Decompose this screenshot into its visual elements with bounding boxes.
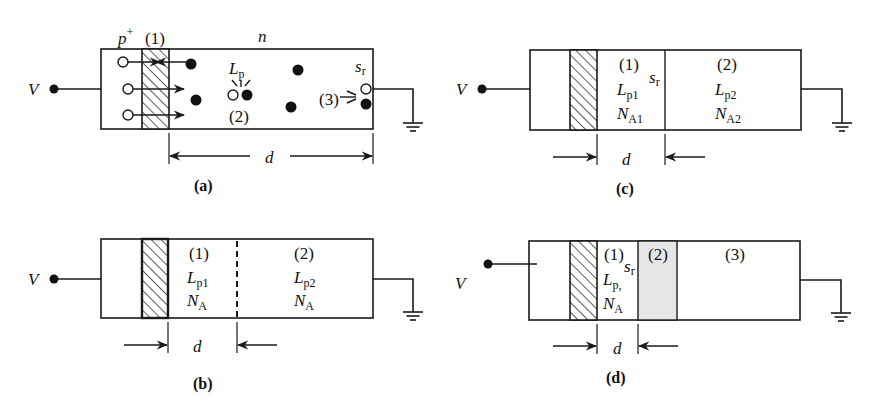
hole-icon bbox=[123, 110, 133, 120]
hole-icon bbox=[228, 90, 238, 100]
region-2-label: (2) bbox=[717, 55, 737, 74]
dimension-d-label: d bbox=[622, 150, 631, 169]
diode-figure: V p+ (1) n Lp (2) sr (3) d (a) V (1) Lp1… bbox=[0, 0, 882, 411]
caption-c: (c) bbox=[616, 180, 634, 198]
terminal-dot-icon bbox=[50, 85, 59, 94]
region-3-label: (3) bbox=[725, 245, 745, 264]
electron-icon bbox=[186, 59, 197, 70]
p-plus-label: p+ bbox=[117, 25, 134, 48]
caption-b: (b) bbox=[193, 375, 213, 393]
hole-icon bbox=[118, 57, 128, 67]
region-1-label: (1) bbox=[619, 55, 639, 74]
terminal-label-v: V bbox=[455, 274, 468, 293]
depletion-region-hatch bbox=[570, 241, 597, 320]
electron-icon bbox=[191, 95, 202, 106]
caption-d: (d) bbox=[606, 369, 626, 387]
panel-b: V (1) Lp1 NA (2) Lp2 NA d (b) bbox=[28, 239, 423, 393]
dimension-d-label: d bbox=[265, 148, 274, 167]
panel-d: V (1) sr Lp, NA (2) (3) d (d) bbox=[455, 241, 851, 387]
region-3-label: (3) bbox=[319, 90, 339, 109]
ground-wire bbox=[373, 279, 413, 312]
dimension-d-label: d bbox=[613, 339, 622, 358]
depletion-region-hatch bbox=[142, 239, 168, 318]
depletion-region-hatch bbox=[570, 50, 597, 130]
ground-wire bbox=[801, 89, 842, 123]
electron-icon bbox=[286, 102, 297, 113]
electron-icon bbox=[361, 99, 372, 110]
terminal-dot-icon bbox=[484, 260, 493, 269]
n-region-label: n bbox=[258, 27, 267, 46]
panel-c: V (1) sr Lp1 NA1 (2) Lp2 NA2 d (c) bbox=[456, 50, 852, 198]
region-2-label: (2) bbox=[648, 245, 668, 264]
electron-icon bbox=[242, 90, 253, 101]
region-2-label: (2) bbox=[229, 107, 249, 126]
terminal-label-v: V bbox=[28, 80, 41, 99]
caption-a: (a) bbox=[194, 177, 213, 195]
panel-a: V p+ (1) n Lp (2) sr (3) d (a) bbox=[28, 25, 423, 195]
ground-wire bbox=[800, 280, 841, 313]
hole-icon bbox=[123, 84, 133, 94]
terminal-dot-icon bbox=[478, 85, 487, 94]
dimension-d-label: d bbox=[193, 337, 202, 356]
electron-icon bbox=[293, 65, 304, 76]
ground-wire bbox=[373, 89, 413, 123]
terminal-label-v: V bbox=[456, 80, 469, 99]
region-1-label: (1) bbox=[604, 245, 624, 264]
region-2-label: (2) bbox=[294, 244, 314, 263]
terminal-label-v: V bbox=[28, 270, 41, 289]
region-1-label: (1) bbox=[189, 244, 209, 263]
hole-icon bbox=[361, 84, 371, 94]
terminal-dot-icon bbox=[50, 275, 59, 284]
region-1-label: (1) bbox=[145, 29, 165, 48]
